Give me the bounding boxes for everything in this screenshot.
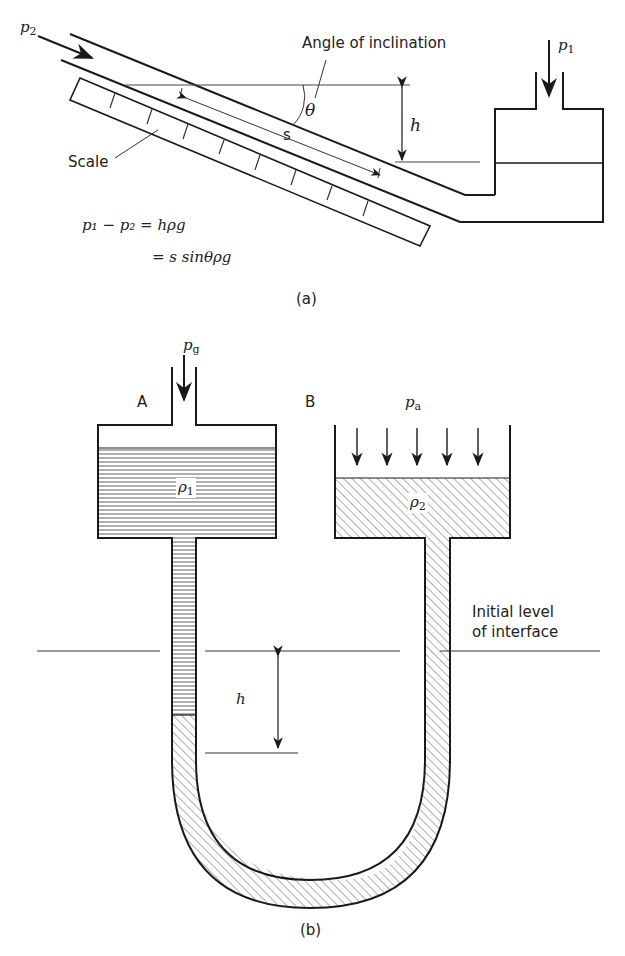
reservoir-left (495, 72, 536, 195)
vessel-a-label: A (137, 393, 147, 411)
figure-a-caption: (a) (296, 290, 317, 308)
fluid-b-density-label: ρ2 (408, 493, 428, 513)
vessel-b-label: B (305, 393, 315, 411)
u-tube-manometer (98, 367, 510, 908)
atmospheric-pressure-label: pa (405, 393, 421, 413)
theta-symbol: θ (305, 100, 315, 120)
fluid-a-density-label: ρ1 (176, 478, 196, 498)
figure-b-caption: (b) (300, 921, 321, 939)
equation-line-1: p₁ − p₂ = hρg (82, 216, 186, 234)
scale-label: Scale (68, 153, 108, 171)
h-symbol-a: h (410, 115, 421, 135)
reservoir-right (563, 72, 603, 109)
tube-upper-wall (70, 34, 495, 195)
angle-of-inclination-label: Angle of inclination (302, 34, 446, 52)
interface-label-line-2: of interface (472, 623, 558, 641)
s-symbol: s (283, 126, 291, 144)
h-symbol-b: h (236, 690, 246, 708)
reservoir-pressure-label: p1 (558, 36, 575, 56)
gas-pressure-label: pg (183, 336, 200, 356)
equation-line-2: = s sinθρg (152, 248, 231, 266)
manometer-diagrams (0, 0, 625, 956)
interface-label-line-1: Initial level (472, 603, 554, 621)
inlet-pressure-label: p2 (20, 18, 37, 38)
